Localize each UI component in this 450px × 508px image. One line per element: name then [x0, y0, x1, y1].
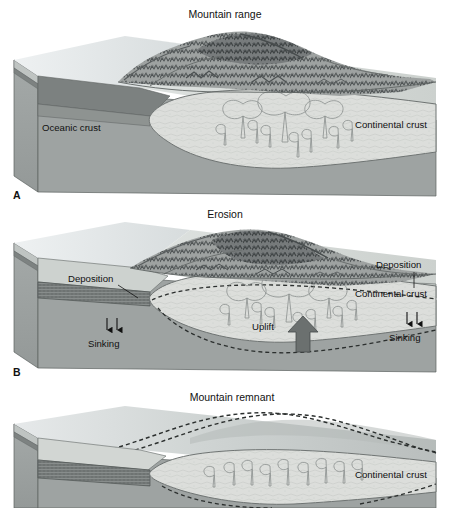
- continental-crust-label-b: Continental crust: [355, 288, 427, 299]
- oceanic-crust-label-a: Oceanic crust: [42, 122, 101, 133]
- geology-diagram: Mountain range: [0, 0, 450, 508]
- panel-letter-b: B: [13, 366, 21, 378]
- figure-container: Mountain range: [0, 0, 450, 508]
- panel-letter-a: A: [13, 189, 21, 201]
- sinking-left-label-b: Sinking: [88, 338, 119, 349]
- panel-a-title: Mountain range: [189, 8, 262, 20]
- sinking-right-label-b: Sinking: [389, 332, 420, 343]
- deposition-right-label-b: Deposition: [376, 259, 421, 270]
- continental-crust-label-a: Continental crust: [355, 119, 427, 130]
- panel-c-title: Mountain remnant: [190, 391, 275, 403]
- deposition-left-label-b: Deposition: [68, 273, 113, 284]
- continental-crust-label-c: Continental crust: [355, 469, 427, 480]
- panel-b-title: Erosion: [207, 208, 243, 220]
- uplift-label-b: Uplift: [252, 321, 274, 332]
